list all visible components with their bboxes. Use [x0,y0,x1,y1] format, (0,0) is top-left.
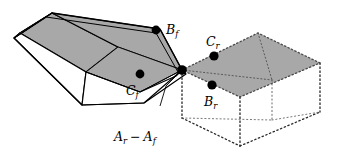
label-a-difference-sub-1: r [123,136,128,146]
label-a-difference: Ar−Af [113,129,158,146]
rear-box-top-face [182,33,320,97]
rear-box [182,33,320,146]
label-a-difference-base-1: A [113,129,123,144]
label-b-front-base: B [165,22,175,37]
front-box [14,13,186,105]
point-c-front [136,70,145,79]
label-b-front: Bf [165,22,180,39]
label-b-rear: Br [203,94,218,111]
label-c-rear: Cr [206,34,221,51]
diagram-root: Bf Cf Cr Br Ar−Af [0,0,346,156]
label-b-rear-base: B [203,94,213,109]
label-b-rear-sub: r [213,101,218,111]
geometry-diagram: Bf Cf Cr Br Ar−Af [0,0,346,156]
label-a-difference-operator: − [130,129,140,144]
point-a-junction [177,65,187,75]
point-c-rear [209,51,218,60]
point-b-front [152,26,161,35]
label-a-difference-base-2: A [143,129,153,144]
label-c-front-base: C [126,83,136,98]
label-c-rear-base: C [206,34,216,49]
rear-box-bottom-edge-left-front [182,118,240,146]
label-a-difference-sub-2: f [152,136,158,146]
rear-box-bottom-edge-left-back [182,118,272,120]
rear-box-bottom-edge-back-right [272,112,320,120]
rear-box-bottom-edge-front-right [240,112,320,146]
label-c-rear-sub: r [216,41,221,51]
point-b-rear [207,80,216,89]
label-b-front-sub: f [174,29,180,39]
